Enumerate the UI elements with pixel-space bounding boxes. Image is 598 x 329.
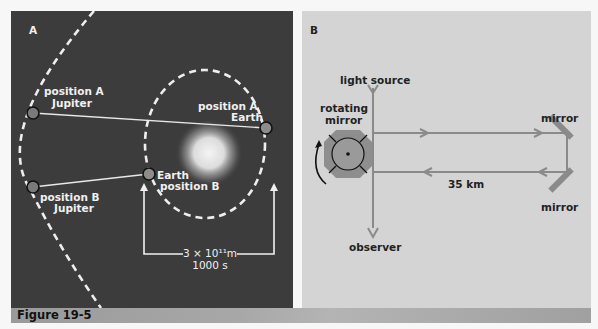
mirror-top-label: mirror	[541, 112, 579, 124]
light-beam	[368, 85, 567, 237]
panel-b-fizeau-apparatus: B light source rotating mirror mirror mi…	[302, 11, 591, 308]
light-source-label: light source	[340, 74, 410, 86]
path-b	[33, 174, 149, 187]
orbit-diagram: A position A Jupiter position A Earth Ea…	[11, 11, 293, 308]
rotation-arrowhead-icon	[315, 140, 322, 148]
earth-b-label-2: position B	[160, 180, 220, 192]
observer-label: observer	[349, 241, 402, 253]
distance-label: 35 km	[448, 178, 484, 190]
jupiter-orbit	[20, 11, 101, 308]
earth-a-label-2: Earth	[231, 111, 263, 123]
rotating-mirror-label-1: rotating	[320, 102, 368, 114]
jupiter-a-label-1: position A	[44, 85, 105, 97]
figure-caption: Figure 19-5	[17, 308, 91, 323]
rotating-mirror-label-2: mirror	[325, 114, 363, 126]
rotating-mirror	[324, 130, 372, 178]
mirror-bottom-label: mirror	[541, 201, 579, 213]
figure-caption-bar: Figure 19-5	[11, 308, 591, 323]
earth-position-b	[143, 168, 155, 180]
apparatus-diagram: B light source rotating mirror mirror mi…	[302, 11, 591, 308]
earth-position-a	[260, 122, 272, 134]
jupiter-b-label-2: Jupiter	[53, 202, 95, 214]
jupiter-position-b	[27, 181, 39, 193]
jupiter-a-label-2: Jupiter	[51, 97, 93, 109]
panel-a-label: A	[29, 24, 38, 36]
distance-label: 3 × 10¹¹m	[183, 247, 237, 259]
panel-a-jupiter-earth: A position A Jupiter position A Earth Ea…	[11, 11, 293, 308]
time-label: 1000 s	[192, 259, 228, 271]
panel-b-label: B	[310, 24, 318, 36]
jupiter-position-a	[27, 107, 39, 119]
